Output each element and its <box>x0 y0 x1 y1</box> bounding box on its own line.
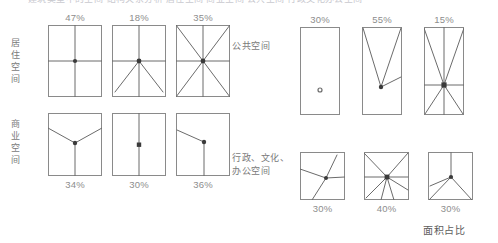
percent-label: 30% <box>300 203 345 214</box>
cell-admin-1[interactable]: 30% <box>300 152 345 200</box>
center-node <box>441 82 446 87</box>
cell-public-1[interactable]: 30% <box>300 27 340 115</box>
figure-cross-diagonals <box>176 25 230 97</box>
percent-label: 30% <box>300 14 340 25</box>
figure-vertical <box>112 113 166 176</box>
percent-label: 30% <box>428 203 473 214</box>
figure-cross-diagonals-tall <box>424 27 464 115</box>
percent-label: 34% <box>48 179 102 190</box>
center-node <box>449 175 453 179</box>
diagram-matrix: 居住空间 47% 18% 35% <box>0 0 498 243</box>
percent-label: 40% <box>364 203 409 214</box>
center-node <box>73 141 77 145</box>
row-label-residential: 居住空间 <box>10 37 22 85</box>
cell-residential-3[interactable]: 35% <box>176 25 230 97</box>
percent-label: 15% <box>424 14 464 25</box>
center-node <box>137 59 142 64</box>
cell-admin-2[interactable]: 40% <box>364 152 409 200</box>
figure-cross <box>48 25 102 97</box>
percent-label: 36% <box>176 179 230 190</box>
percent-label: 55% <box>362 14 402 25</box>
cell-commercial-3[interactable]: 36% <box>176 113 230 176</box>
figure-dot-only <box>300 27 340 115</box>
figure-radial-star <box>364 152 409 200</box>
figure-elbow-left <box>176 113 230 176</box>
cell-public-2[interactable]: 55% <box>362 27 402 115</box>
center-node <box>318 88 322 92</box>
percent-label: 30% <box>112 179 166 190</box>
center-node <box>202 140 206 144</box>
percent-label: 35% <box>176 12 230 23</box>
center-node <box>201 59 206 64</box>
figure-tripod <box>428 152 473 200</box>
axis-caption-area-ratio: 面积占比 <box>423 225 465 237</box>
figure-v-converge-branch <box>362 27 402 115</box>
center-node <box>385 175 390 180</box>
figure-irregular-junction <box>300 152 345 200</box>
row-label-commercial: 商业空间 <box>10 118 22 166</box>
center-node <box>73 59 77 63</box>
cell-commercial-1[interactable]: 34% <box>48 113 102 176</box>
percent-label: 47% <box>48 12 102 23</box>
center-node <box>137 143 141 147</box>
cell-commercial-2[interactable]: 30% <box>112 113 166 176</box>
cell-public-3[interactable]: 15% <box>424 27 464 115</box>
cell-residential-2[interactable]: 18% <box>112 25 166 97</box>
cell-residential-1[interactable]: 47% <box>48 25 102 97</box>
row-label-admin-culture-office: 行政、文化、办公空间 <box>232 152 296 178</box>
percent-label: 18% <box>112 12 166 23</box>
center-node <box>379 85 383 89</box>
figure-cross-v-bottom <box>112 25 166 97</box>
figure-y-top <box>48 113 102 176</box>
row-label-public: 公共空间 <box>232 40 296 53</box>
center-node <box>324 176 328 180</box>
cell-admin-3[interactable]: 30% <box>428 152 473 200</box>
